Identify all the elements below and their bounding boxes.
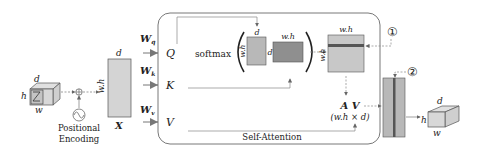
output-w-label: w bbox=[433, 128, 441, 138]
v-route-line bbox=[188, 124, 355, 131]
add-icon bbox=[76, 89, 82, 95]
output-d-label: d bbox=[437, 96, 443, 106]
q-label: Q bbox=[166, 47, 175, 60]
x-matrix bbox=[108, 59, 131, 117]
pe-label-line2: Encoding bbox=[59, 134, 100, 144]
x-rows-label: w.h bbox=[96, 79, 106, 93]
attention-rows-label: w.h bbox=[318, 48, 327, 61]
marker-2: ② bbox=[407, 65, 418, 79]
attention-map bbox=[328, 35, 364, 72]
v-label: V bbox=[166, 116, 175, 129]
sine-wave-icon bbox=[73, 109, 85, 121]
attention-cols-label: w.h bbox=[339, 25, 353, 34]
input-w-label: w bbox=[35, 105, 43, 115]
k-route-line bbox=[188, 79, 290, 88]
q-route-line bbox=[177, 17, 257, 44]
marker-1: ① bbox=[387, 25, 398, 39]
wk-sub: k bbox=[151, 70, 155, 77]
wq-arrow: Wq bbox=[140, 33, 158, 57]
av-label: A V bbox=[340, 100, 361, 111]
k-label: K bbox=[165, 79, 175, 92]
self-attention-label: Self-Attention bbox=[242, 132, 302, 142]
attention-row-highlight bbox=[328, 44, 364, 47]
self-attention-diagram: d h w Positional Encoding d w.h X Wq Wk … bbox=[0, 0, 482, 151]
marker-1-arrow bbox=[366, 39, 391, 46]
x-cols-label: d bbox=[116, 48, 122, 58]
wv-arrow: Wv bbox=[140, 104, 158, 126]
input-d-label: d bbox=[34, 74, 40, 84]
kt-matrix bbox=[273, 42, 303, 62]
kt-cols-label: w.h bbox=[281, 32, 295, 41]
softmax-label: softmax bbox=[195, 49, 231, 59]
output-h-label: h bbox=[421, 115, 427, 125]
output-tensor: d h w bbox=[421, 96, 459, 138]
svg-text:Wv: Wv bbox=[140, 104, 155, 116]
svg-text:Wq: Wq bbox=[140, 33, 155, 46]
input-h-label: h bbox=[21, 91, 27, 101]
x-label: X bbox=[114, 120, 124, 131]
kt-rows-label: d bbox=[267, 48, 272, 57]
marker-2-arrow bbox=[395, 72, 406, 77]
av-shape-label: (w.h × d) bbox=[330, 112, 369, 122]
input-tensor: d h w bbox=[21, 74, 60, 115]
svg-text:Wk: Wk bbox=[140, 65, 155, 77]
q-cols-label: d bbox=[254, 28, 259, 37]
wv-sub: v bbox=[151, 109, 155, 116]
q-matrix bbox=[247, 37, 266, 65]
wq-sub: q bbox=[151, 38, 155, 46]
q-rows-label: w.h bbox=[238, 44, 247, 57]
output-column-highlight bbox=[393, 78, 396, 137]
pe-label-line1: Positional bbox=[58, 123, 100, 133]
wk-arrow: Wk bbox=[140, 65, 158, 89]
